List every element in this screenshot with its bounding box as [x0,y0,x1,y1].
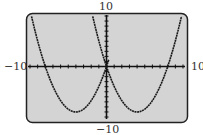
graph-screen [0,0,203,135]
